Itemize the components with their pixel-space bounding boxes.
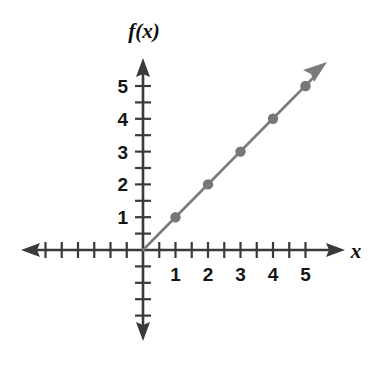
function-line-arrow [303,62,327,82]
x-tick-label: 5 [300,264,311,285]
x-tick-label: 2 [203,264,214,285]
function-line [143,75,316,250]
x-tick-label: 4 [268,264,279,285]
axis-group [21,58,345,341]
y-tick-labels: 1 2 3 4 5 [117,76,128,228]
data-point [235,146,245,156]
y-tick-label: 4 [117,109,128,130]
y-tick-label: 3 [117,142,128,163]
y-tick-label: 5 [117,76,128,97]
coordinate-plane: 1 2 3 4 5 1 2 3 4 5 f(x) x [0,0,385,372]
x-axis-label: x [350,239,362,263]
y-tick-label: 1 [117,207,128,228]
data-point [268,114,278,124]
graph-figure: 1 2 3 4 5 1 2 3 4 5 f(x) x [0,0,385,372]
x-tick-label: 1 [170,264,181,285]
data-point [300,81,310,91]
x-tick-labels: 1 2 3 4 5 [170,264,311,285]
x-tick-label: 3 [235,264,246,285]
data-point [203,179,213,189]
function-line-group [143,62,327,250]
data-point [170,212,180,222]
y-tick-label: 2 [117,174,128,195]
y-axis-label: f(x) [128,19,159,43]
